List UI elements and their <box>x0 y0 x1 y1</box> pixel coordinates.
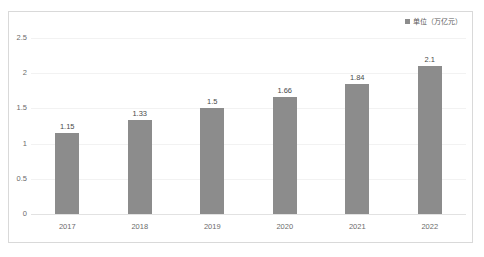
bar-group: 1.662020 <box>249 38 321 214</box>
bar[interactable] <box>55 133 79 214</box>
x-axis-tick-label: 2021 <box>349 223 366 231</box>
bar-value-label: 2.1 <box>425 56 435 64</box>
bar[interactable] <box>200 108 224 214</box>
y-axis-tick-label: 2.5 <box>17 34 27 42</box>
bar-group: 2.12022 <box>394 38 466 214</box>
bar-group: 1.842021 <box>321 38 393 214</box>
y-axis-tick-label: 2 <box>23 69 27 77</box>
legend-swatch-icon <box>405 19 410 24</box>
x-axis-tick-label: 2020 <box>276 223 293 231</box>
chart-container: 单位（万亿元） 2.521.510.501.1520171.3320181.52… <box>8 11 473 243</box>
bar-value-label: 1.66 <box>277 87 292 95</box>
bar[interactable] <box>418 66 442 214</box>
bar-value-label: 1.15 <box>60 123 75 131</box>
x-axis-tick-label: 2019 <box>204 223 221 231</box>
x-axis-tick-label: 2018 <box>131 223 148 231</box>
bar-value-label: 1.33 <box>132 110 147 118</box>
gridline <box>31 214 466 215</box>
x-axis-tick-label: 2017 <box>59 223 76 231</box>
x-axis-tick-label: 2022 <box>421 223 438 231</box>
bar-group: 1.152017 <box>31 38 103 214</box>
plot-area: 2.521.510.501.1520171.3320181.520191.662… <box>31 38 466 214</box>
bar-group: 1.52019 <box>176 38 248 214</box>
bar[interactable] <box>128 120 152 214</box>
chart-legend: 单位（万亿元） <box>405 15 462 27</box>
bar-value-label: 1.84 <box>350 74 365 82</box>
y-axis-tick-label: 1 <box>23 140 27 148</box>
bar[interactable] <box>345 84 369 214</box>
y-axis-tick-label: 0 <box>23 210 27 218</box>
bar-value-label: 1.5 <box>207 98 217 106</box>
bar[interactable] <box>273 97 297 214</box>
bar-group: 1.332018 <box>103 38 175 214</box>
legend-label: 单位（万亿元） <box>413 18 462 25</box>
y-axis-tick-label: 1.5 <box>17 105 27 113</box>
y-axis-tick-label: 0.5 <box>17 175 27 183</box>
